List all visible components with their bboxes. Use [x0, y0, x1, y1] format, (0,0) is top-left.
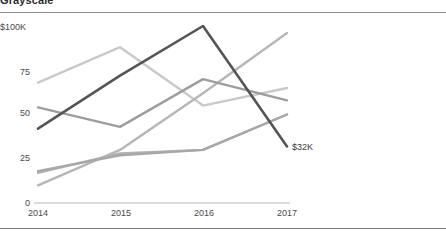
series-end-value-label: $32K — [292, 142, 313, 152]
series-layer — [38, 26, 287, 185]
y-axis-tick-0: 0 — [0, 198, 30, 208]
y-axis-tick-50: 50 — [0, 108, 30, 118]
line-chart — [0, 16, 446, 216]
x-axis-tick-2016: 2016 — [184, 208, 224, 219]
footer-divider — [0, 228, 446, 229]
series-line-5 — [38, 33, 287, 185]
chart-title-clipped: Grayscale — [0, 0, 200, 9]
x-axis-tick-2015: 2015 — [101, 208, 141, 219]
series-line-1 — [38, 26, 287, 146]
y-axis-tick-25: 25 — [0, 153, 30, 163]
page-title: Grayscale — [0, 0, 54, 7]
x-axis-tick-2014: 2014 — [18, 208, 58, 219]
chart-svg — [0, 16, 446, 216]
chart-page: Grayscale $100K 75 50 25 0 2014 2015 201… — [0, 0, 446, 233]
y-axis-tick-75: 75 — [0, 67, 30, 77]
header-divider — [0, 12, 446, 13]
series-line-6 — [38, 115, 287, 172]
y-axis-tick-100k: $100K — [0, 22, 34, 32]
series-line-2 — [38, 47, 287, 105]
x-axis-tick-2017: 2017 — [267, 208, 307, 219]
